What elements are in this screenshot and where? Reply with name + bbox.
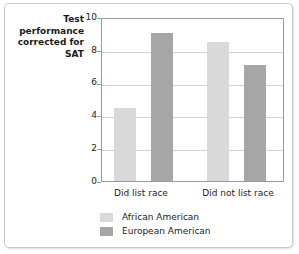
y-tick-label-6: 6	[81, 78, 97, 87]
y-tick-label-8: 8	[81, 46, 97, 55]
gridline-8	[102, 52, 283, 53]
y-tick-label-10: 10	[81, 13, 97, 22]
legend-swatch-european-american	[100, 227, 113, 236]
x-axis-label-did-list-race: Did list race	[101, 188, 181, 198]
y-axis-title-line-3: corrected for	[12, 37, 84, 49]
chart-legend: African American European American	[100, 210, 211, 238]
y-tick-label-2: 2	[81, 144, 97, 153]
x-axis-label-did-not-list-race: Did not list race	[192, 188, 284, 198]
legend-swatch-african-american	[100, 213, 113, 222]
plot-area	[101, 18, 284, 182]
legend-item-european-american: European American	[100, 224, 211, 238]
y-axis-title-line-1: Test	[12, 14, 84, 26]
legend-item-african-american: African American	[100, 210, 211, 224]
chart-figure: Test performance corrected for SAT 10 8 …	[0, 0, 299, 254]
y-tick-mark-0	[97, 182, 101, 183]
y-tick-label-0: 0	[81, 177, 97, 186]
y-tick-label-4: 4	[81, 111, 97, 120]
bar-did-list-race-african-american	[114, 108, 136, 181]
bar-did-not-list-race-african-american	[207, 42, 229, 181]
legend-label-european-american: European American	[122, 226, 211, 236]
y-axis-title-line-2: performance	[12, 26, 84, 38]
y-axis-title: Test performance corrected for SAT	[12, 14, 84, 60]
bar-did-list-race-european-american	[151, 33, 173, 181]
legend-label-african-american: African American	[122, 212, 199, 222]
y-axis-title-line-4: SAT	[12, 49, 84, 61]
y-axis-ticks: 10 8 6 4 2 0	[79, 0, 97, 254]
bar-did-not-list-race-european-american	[244, 65, 266, 181]
